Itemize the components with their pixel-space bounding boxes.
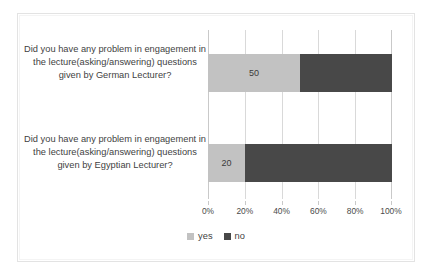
plot-area: 50 20 bbox=[208, 30, 392, 199]
legend-label: no bbox=[235, 232, 245, 241]
bar-row[interactable]: 20 bbox=[208, 144, 392, 182]
bar-segment-yes[interactable]: 20 bbox=[208, 144, 245, 182]
legend-label: yes bbox=[198, 232, 212, 241]
x-tick-label-40: 40% bbox=[273, 206, 290, 216]
bar-segment-no[interactable] bbox=[300, 54, 392, 92]
x-tick-label-60: 60% bbox=[310, 206, 327, 216]
bar-segment-no[interactable] bbox=[245, 144, 392, 182]
bar-data-label: 50 bbox=[249, 69, 259, 78]
legend-swatch-icon bbox=[187, 233, 194, 240]
category-label-egyptian: Did you have any problem in engagement i… bbox=[24, 133, 206, 173]
chart-container: Did you have any problem in engagement i… bbox=[17, 13, 415, 262]
x-tick-mark bbox=[355, 201, 356, 205]
x-tick-mark bbox=[208, 201, 209, 205]
legend-item-no[interactable]: no bbox=[224, 232, 245, 241]
x-tick-label-20: 20% bbox=[236, 206, 253, 216]
x-tick-mark bbox=[282, 201, 283, 205]
chart-legend: yes no bbox=[18, 232, 414, 241]
legend-item-yes[interactable]: yes bbox=[187, 232, 212, 241]
bar-row[interactable]: 50 bbox=[208, 54, 392, 92]
x-tick-label-80: 80% bbox=[347, 206, 364, 216]
x-tick-mark bbox=[318, 201, 319, 205]
legend-swatch-icon bbox=[224, 233, 231, 240]
bar-data-label: 20 bbox=[221, 159, 231, 168]
x-tick-mark bbox=[245, 201, 246, 205]
x-axis: 0% 20% 40% 60% 80% 100% bbox=[208, 201, 392, 217]
x-tick-label-0: 0% bbox=[202, 206, 214, 216]
category-label-german: Did you have any problem in engagement i… bbox=[24, 43, 206, 83]
bar-segment-yes[interactable]: 50 bbox=[208, 54, 300, 92]
x-tick-label-100: 100% bbox=[380, 206, 401, 216]
x-tick-mark bbox=[391, 201, 392, 205]
